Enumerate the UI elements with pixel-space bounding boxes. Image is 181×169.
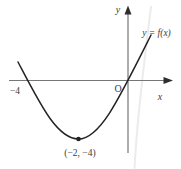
parabola-curve <box>18 35 151 139</box>
x-intercept-label: −4 <box>10 86 20 96</box>
x-axis-label: x <box>157 91 163 102</box>
vertex-label: (−2, −4) <box>64 148 95 159</box>
vertex-point <box>76 137 81 142</box>
y-axis-arrowhead <box>125 6 132 15</box>
curve-label: y = f(x) <box>141 28 171 39</box>
parabola-plot: y y = f(x) x O −4 (−2, −4) <box>0 0 181 169</box>
origin-label: O <box>114 83 121 94</box>
x-axis-arrowhead <box>164 77 174 84</box>
function-graph-figure: y y = f(x) x O −4 (−2, −4) <box>0 0 181 169</box>
y-axis-label: y <box>115 4 121 15</box>
